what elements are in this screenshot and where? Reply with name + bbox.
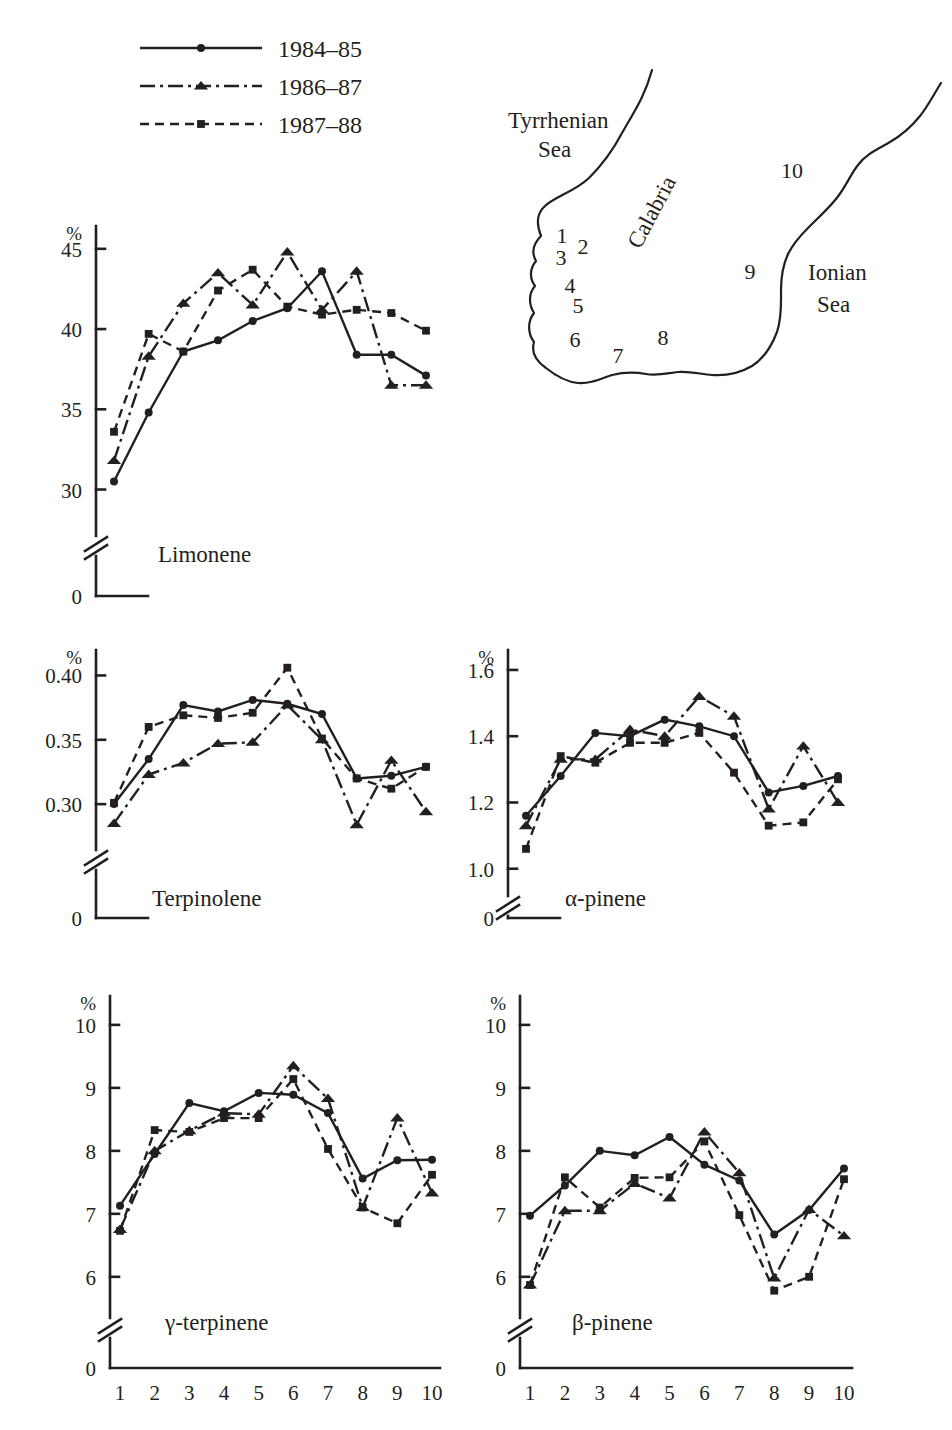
data-point-square [526,1281,534,1289]
series-markers-circle [522,716,842,820]
y-tick-label: 7 [496,1203,507,1227]
data-point-square [522,845,530,853]
data-point-square [730,769,738,777]
data-point-square [626,739,634,747]
data-point-triangle [280,247,294,255]
data-point-square [197,120,205,128]
y-axis-zero-label: 0 [496,1357,507,1381]
data-point-square [805,1273,813,1281]
data-point-square [840,1175,848,1183]
series-line-triangle [530,1132,844,1285]
data-point-circle [765,789,773,797]
coastline-east [788,83,941,254]
data-point-square [116,1227,124,1235]
series-markers-triangle [107,700,433,828]
x-tick-label: 1 [115,1381,126,1405]
data-point-circle [179,701,187,709]
x-tick-label: 9 [804,1381,815,1405]
y-axis-unit: % [80,993,96,1014]
data-point-square [353,774,361,782]
data-point-circle [596,1147,604,1155]
map-label-calabria: Calabria [622,172,681,253]
data-point-square [661,739,669,747]
data-point-circle [631,1151,639,1159]
y-axis-zero-label: 0 [484,907,495,931]
data-point-square [770,1287,778,1295]
axis-break-mark [85,851,107,865]
map-site-number: 7 [613,343,624,368]
data-point-triangle [692,691,706,699]
panel-title: γ-terpinene [164,1310,268,1335]
data-point-circle [249,696,257,704]
x-tick-label: 4 [219,1381,230,1405]
data-point-circle [255,1089,263,1097]
legend-label: 1986–87 [278,74,362,100]
data-point-triangle [107,456,121,464]
data-point-triangle [390,1113,404,1121]
y-tick-label: 45 [61,238,82,262]
data-point-circle [422,372,430,380]
data-point-square [318,311,326,319]
data-point-square [145,330,153,338]
x-tick-label: 6 [288,1381,299,1405]
series-markers-triangle [519,691,845,829]
series-markers-square [110,664,430,807]
data-point-circle [359,1175,367,1183]
data-point-square [283,664,291,672]
x-tick-label: 9 [392,1381,403,1405]
data-point-triangle [286,1061,300,1069]
data-point-circle [116,1202,124,1210]
series-line-square [120,1079,432,1231]
axis-break-mark [497,897,519,911]
x-tick-label: 7 [734,1381,745,1405]
data-point-square [214,714,222,722]
x-tick-label: 4 [629,1381,640,1405]
series-markers-circle [110,696,430,808]
map-inset: TyrrhenianSeaIonianSeaCalabria1234567891… [508,70,941,383]
data-point-square [422,763,430,771]
series-line-square [526,733,838,849]
data-point-square [596,1204,604,1212]
map-label-ionian-sea-line2: Sea [817,292,850,317]
data-point-square [735,1211,743,1219]
map-site-number: 5 [573,293,584,318]
series-markers-circle [116,1089,436,1210]
data-point-circle [591,729,599,737]
data-point-square [561,1173,569,1181]
legend-label: 1984–85 [278,36,362,62]
data-point-square [591,759,599,767]
chart-beta-pinene: %067891012345678910β-pinene [485,993,855,1405]
data-point-triangle [419,807,433,815]
y-tick-label: 40 [61,318,82,342]
axis-break-mark [85,537,107,551]
data-point-circle [387,772,395,780]
data-point-circle [730,732,738,740]
data-point-square [145,723,153,731]
map-site-number: 10 [781,158,803,183]
data-point-circle [185,1099,193,1107]
map-label-tyrrhenian-sea: Tyrrhenian [508,108,609,133]
x-tick-label: 8 [769,1381,780,1405]
data-point-square [765,822,773,830]
y-tick-label: 7 [86,1203,97,1227]
data-point-circle [387,351,395,359]
data-point-triangle [762,804,776,812]
data-point-triangle [350,820,364,828]
data-point-square [255,1114,263,1122]
y-tick-label: 0.40 [45,664,82,688]
y-tick-label: 10 [485,1014,506,1038]
data-point-circle [318,710,326,718]
axis-break-mark [509,1319,531,1333]
x-tick-label: 8 [357,1381,368,1405]
data-point-circle [428,1156,436,1164]
y-axis-zero-label: 0 [86,1357,97,1381]
data-point-circle [840,1164,848,1172]
y-tick-label: 8 [496,1140,507,1164]
x-tick-label: 10 [834,1381,855,1405]
figure-canvas: 1984–851986–871987–88TyrrhenianSeaIonian… [0,0,952,1430]
chart-limonene: %030354045Limonene [61,223,433,609]
legend-label: 1987–88 [278,112,362,138]
data-point-square [666,1173,674,1181]
data-point-square [387,785,395,793]
data-point-triangle [658,731,672,739]
